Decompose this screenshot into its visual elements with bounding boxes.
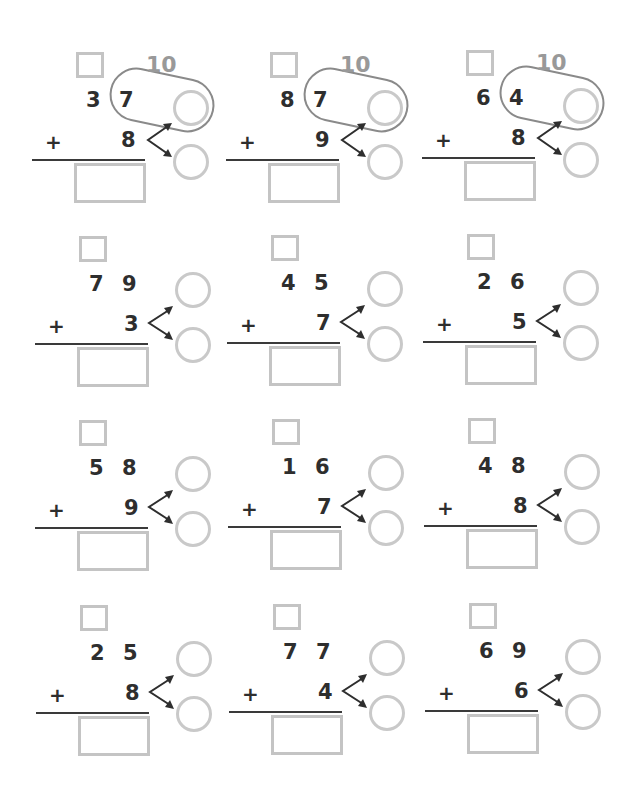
sum-rule (35, 527, 148, 529)
problem-4: 7 9 + 3 (33, 232, 233, 407)
answer-box[interactable] (77, 531, 149, 571)
answer-box[interactable] (74, 163, 146, 203)
answer-circle-top[interactable] (175, 272, 211, 308)
tens-digit: 4 (281, 273, 296, 294)
carry-box[interactable] (79, 236, 107, 262)
answer-circle-bottom[interactable] (565, 694, 601, 730)
addend-digit: 8 (511, 128, 526, 149)
tens-digit: 1 (282, 457, 297, 478)
ones-digit: 8 (511, 456, 526, 477)
answer-circle-bottom[interactable] (175, 327, 211, 363)
answer-circle-bottom[interactable] (175, 511, 211, 547)
arrow-up-icon (554, 673, 563, 682)
plus-sign: + (437, 498, 454, 518)
addend-digit: 6 (514, 681, 529, 702)
plus-sign: + (239, 132, 256, 152)
problem-8: 1 6 + 7 (226, 415, 426, 590)
answer-box[interactable] (467, 714, 539, 754)
answer-box[interactable] (464, 161, 536, 201)
answer-circle-top[interactable] (369, 640, 405, 676)
carry-box[interactable] (79, 420, 107, 446)
carry-box[interactable] (468, 418, 496, 444)
answer-circle-top[interactable] (563, 270, 599, 306)
answer-box[interactable] (271, 715, 343, 755)
answer-circle-top[interactable] (173, 90, 209, 126)
tens-digit: 2 (90, 643, 105, 664)
sum-rule (422, 157, 535, 159)
answer-box[interactable] (465, 345, 537, 385)
carry-box[interactable] (270, 52, 298, 78)
arrow-down-icon (357, 514, 366, 523)
answer-circle-top[interactable] (564, 454, 600, 490)
plus-sign: + (435, 130, 452, 150)
arrow-down-icon (356, 330, 365, 339)
split-arrows-icon (343, 678, 363, 704)
carry-box[interactable] (467, 234, 495, 260)
tens-digit: 6 (476, 88, 491, 109)
answer-circle-bottom[interactable] (368, 510, 404, 546)
plus-sign: + (48, 500, 65, 520)
answer-circle-bottom[interactable] (563, 142, 599, 178)
carry-box[interactable] (76, 52, 104, 78)
sum-rule (227, 342, 340, 344)
answer-box[interactable] (77, 347, 149, 387)
split-arrows-icon (149, 494, 169, 520)
answer-circle-bottom[interactable] (173, 144, 209, 180)
arrow-down-icon (163, 149, 172, 157)
arrow-down-icon (553, 513, 562, 522)
answer-box[interactable] (270, 530, 342, 570)
answer-circle-top[interactable] (368, 455, 404, 491)
addend-digit: 8 (513, 496, 528, 517)
split-arrows-icon (539, 677, 559, 703)
answer-box[interactable] (466, 529, 538, 569)
plus-sign: + (241, 499, 258, 519)
answer-circle-top[interactable] (367, 271, 403, 307)
plus-sign: + (48, 316, 65, 336)
answer-circle-bottom[interactable] (367, 326, 403, 362)
answer-circle-bottom[interactable] (563, 325, 599, 361)
carry-box[interactable] (466, 50, 494, 76)
problem-2: 10 8 7 + 9 (224, 48, 424, 223)
ones-digit: 9 (122, 274, 137, 295)
arrow-up-icon (164, 306, 173, 315)
carry-box[interactable] (273, 604, 301, 630)
carry-box[interactable] (272, 419, 300, 445)
sum-rule (424, 525, 537, 527)
plus-sign: + (45, 132, 62, 152)
answer-circle-top[interactable] (367, 90, 403, 126)
problem-12: 6 9 + 6 (423, 599, 623, 774)
arrow-up-icon (553, 488, 562, 497)
arrow-down-icon (358, 699, 367, 708)
answer-circle-top[interactable] (563, 88, 599, 124)
arrow-down-icon (552, 329, 561, 338)
answer-circle-bottom[interactable] (367, 144, 403, 180)
arrow-up-icon (165, 675, 174, 684)
answer-box[interactable] (78, 716, 150, 756)
split-arrows-icon (537, 308, 557, 334)
arrow-up-icon (356, 305, 365, 314)
answer-box[interactable] (268, 163, 340, 203)
ones-digit: 6 (315, 457, 330, 478)
sum-rule (423, 341, 536, 343)
answer-circle-bottom[interactable] (176, 696, 212, 732)
answer-circle-top[interactable] (565, 639, 601, 675)
carry-box[interactable] (271, 235, 299, 261)
arrow-up-icon (358, 674, 367, 683)
problem-5: 4 5 + 7 (225, 231, 425, 406)
problem-9: 4 8 + 8 (422, 414, 622, 589)
split-arrows-icon (342, 493, 362, 519)
carry-box[interactable] (80, 605, 108, 631)
addend-digit: 9 (124, 498, 139, 519)
plus-sign: + (240, 315, 257, 335)
split-arrows-icon (538, 124, 558, 152)
answer-circle-top[interactable] (175, 456, 211, 492)
carry-box[interactable] (469, 603, 497, 629)
plus-sign: + (242, 684, 259, 704)
ones-digit: 5 (314, 273, 329, 294)
answer-box[interactable] (269, 346, 341, 386)
addend-digit: 9 (315, 130, 330, 151)
answer-circle-bottom[interactable] (369, 695, 405, 731)
answer-circle-top[interactable] (176, 641, 212, 677)
tens-digit: 2 (477, 272, 492, 293)
answer-circle-bottom[interactable] (564, 509, 600, 545)
